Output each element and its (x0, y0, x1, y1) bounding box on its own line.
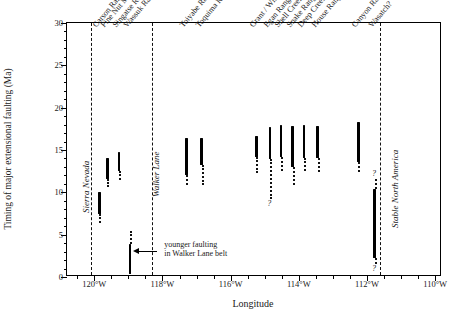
y-tick-minor (64, 218, 68, 219)
x-tick-minor (384, 275, 385, 279)
x-tick-minor (316, 275, 317, 279)
uncertainty-question-mark: ? (372, 265, 376, 273)
province-boundary-line (380, 23, 381, 275)
plot-area: 051015202530 120°W118°W116°W114°W112°W11… (66, 22, 441, 276)
annotation-arrow-icon (133, 248, 157, 255)
y-tick-minor (64, 175, 68, 176)
x-tick-minor (180, 275, 181, 279)
x-tick-minor (214, 275, 215, 279)
range-bar-certain (291, 126, 294, 167)
range-bar-certain (255, 136, 258, 157)
x-tick-minor (282, 275, 283, 279)
annotation-line-2: in Walker Lane belt (164, 249, 227, 258)
y-tick-minor (64, 269, 68, 270)
range-bar-uncertain-lower (186, 175, 188, 185)
y-tick-minor (64, 48, 68, 49)
uncertainty-question-mark: ? (267, 200, 271, 208)
y-tick-minor (64, 243, 68, 244)
range-bar-uncertain-lower (318, 158, 320, 172)
y-tick-minor (64, 201, 68, 202)
x-tick-minor (111, 275, 112, 279)
y-tick-minor (64, 31, 68, 32)
y-tick-minor (64, 74, 68, 75)
figure-extensional-faulting-timing: Timing of major extensional faulting (Ma… (0, 0, 469, 322)
y-tick-minor (64, 40, 68, 41)
range-bar-uncertain-lower (202, 165, 204, 184)
y-tick-minor (64, 133, 68, 134)
range-bar-uncertain-lower (281, 157, 283, 171)
y-tick-label: 0 (59, 273, 63, 282)
uncertainty-question-mark: ? (372, 170, 376, 178)
x-tick-label: 114°W (287, 280, 311, 289)
y-tick-minor (64, 91, 68, 92)
range-bar-uncertain-upper (130, 231, 132, 244)
range-bar-certain (98, 192, 101, 214)
y-tick-label: 20 (55, 103, 64, 112)
province-label: Walker Lane (152, 151, 161, 196)
range-bar-uncertain-lower (304, 158, 306, 171)
range-bar-uncertain-upper (375, 179, 377, 189)
x-tick-label: 120°W (82, 280, 106, 289)
arrow-shaft (138, 251, 157, 252)
range-bar-certain (106, 158, 109, 179)
range-bar-uncertain-lower (107, 179, 109, 187)
range-bar-uncertain-lower (99, 214, 101, 222)
y-tick-minor (64, 82, 68, 83)
younger-faulting-annotation: younger faultingin Walker Lane belt (164, 240, 227, 258)
range-bar-uncertain-lower (119, 171, 121, 179)
x-tick-minor (333, 275, 334, 279)
x-tick-minor (145, 275, 146, 279)
y-tick-minor (64, 125, 68, 126)
y-tick-label: 15 (55, 146, 64, 155)
y-tick-minor (64, 158, 68, 159)
y-tick-minor (64, 99, 68, 100)
range-bar-certain (357, 122, 360, 162)
x-tick-label: 116°W (219, 280, 243, 289)
range-bar-certain (269, 127, 272, 159)
x-tick-label: 110°W (423, 280, 447, 289)
y-tick-minor (64, 116, 68, 117)
range-bar-uncertain-lower (358, 162, 360, 172)
range-bar-certain (280, 125, 283, 157)
range-bar-certain (185, 138, 188, 174)
x-tick-minor (128, 275, 129, 279)
range-bar-uncertain-lower (375, 258, 377, 265)
y-tick-label: 25 (55, 61, 64, 70)
x-tick-minor (418, 275, 419, 279)
province-boundary-line (91, 23, 92, 275)
y-tick-minor (64, 184, 68, 185)
range-bar-certain (303, 125, 306, 159)
x-tick-minor (197, 275, 198, 279)
range-bar-certain (373, 189, 376, 258)
x-tick-minor (350, 275, 351, 279)
range-bar-certain (129, 244, 132, 274)
x-tick-minor (265, 275, 266, 279)
y-tick-minor (64, 209, 68, 210)
y-axis-title: Timing of major extensional faulting (Ma… (4, 68, 14, 229)
y-tick-label: 10 (55, 188, 64, 197)
x-tick-label: 118°W (151, 280, 175, 289)
province-label: Stable North America (391, 150, 400, 228)
annotation-line-1: younger faulting (164, 240, 227, 249)
y-tick-minor (64, 260, 68, 261)
y-tick-label: 30 (55, 19, 64, 28)
range-bar-uncertain-lower (293, 167, 295, 185)
x-tick-minor (401, 275, 402, 279)
y-tick-minor (64, 57, 68, 58)
y-tick-label: 5 (59, 230, 63, 239)
x-tick-label: 112°W (355, 280, 379, 289)
y-tick-minor (64, 226, 68, 227)
province-boundary-line (152, 23, 153, 275)
range-bar-uncertain-lower (256, 157, 258, 173)
range-bar-certain (316, 126, 319, 158)
x-tick-minor (248, 275, 249, 279)
x-tick-minor (77, 275, 78, 279)
range-bar-certain (118, 152, 121, 171)
range-bar-certain (200, 138, 203, 165)
x-axis-title: Longitude (232, 299, 273, 309)
y-tick-minor (64, 167, 68, 168)
y-tick-minor (64, 142, 68, 143)
y-tick-minor (64, 252, 68, 253)
province-label: Sierra Nevada (82, 160, 91, 212)
range-bar-uncertain-lower (270, 159, 272, 199)
